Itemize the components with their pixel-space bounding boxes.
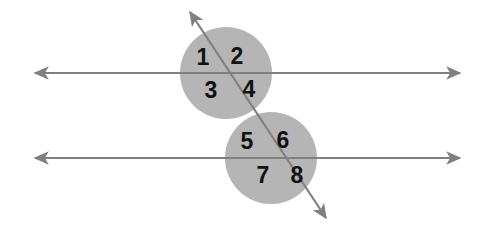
angle-label-2: 2: [224, 45, 250, 68]
geometry-figure: 1 2 3 4 5 6 7 8: [0, 0, 493, 242]
angle-label-4: 4: [236, 78, 262, 101]
angle-label-6: 6: [270, 129, 296, 152]
angle-label-3: 3: [198, 79, 224, 102]
angle-label-5: 5: [234, 130, 260, 153]
angle-label-8: 8: [284, 164, 310, 187]
geometry-canvas: [0, 0, 493, 242]
angle-label-1: 1: [190, 46, 216, 69]
angle-label-7: 7: [250, 164, 276, 187]
